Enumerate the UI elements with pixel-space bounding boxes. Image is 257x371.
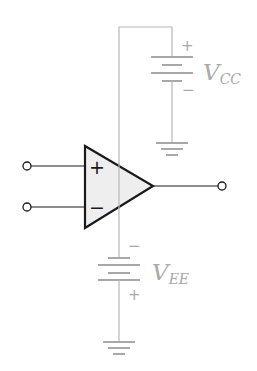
inverting-input-terminal[interactable]: [23, 203, 31, 211]
vcc-label-sub: CC: [220, 71, 242, 87]
opamp-circuit-diagram: + − VCC − + VEE + −: [0, 0, 257, 371]
vee-label-sub: EE: [168, 271, 189, 287]
vcc-negative-sign: −: [182, 81, 195, 99]
vee-label: VEE: [152, 259, 189, 287]
noninverting-input-terminal[interactable]: [23, 162, 31, 170]
vee-ground-icon: [103, 342, 135, 354]
vee-negative-sign: −: [128, 237, 141, 255]
vcc-ground-icon: [156, 143, 188, 155]
vcc-supply-wire: [119, 27, 172, 186]
vee-positive-sign: +: [128, 286, 141, 304]
vcc-positive-sign: +: [181, 37, 194, 55]
output-terminal[interactable]: [218, 182, 226, 190]
inverting-input-symbol: −: [89, 196, 105, 218]
vcc-battery: [151, 57, 193, 81]
noninverting-input-symbol: +: [89, 156, 105, 178]
vee-battery: [98, 258, 140, 280]
vcc-label: VCC: [203, 59, 241, 87]
